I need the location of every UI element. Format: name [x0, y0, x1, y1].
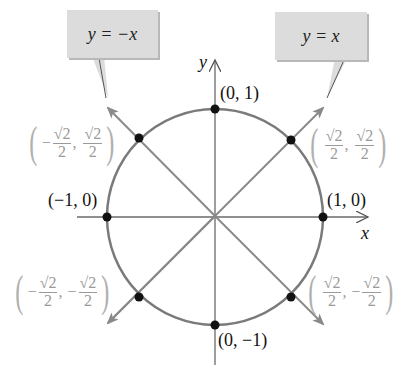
point-q3: [135, 293, 144, 302]
point-right: [319, 213, 328, 222]
point-q4: [287, 293, 296, 302]
line-y-equals-x-back: [108, 216, 215, 323]
label-q4: ( √22, − √22 ): [305, 270, 397, 314]
point-q1: [287, 136, 296, 145]
label-bottom: (0, −1): [218, 330, 267, 351]
label-q3: ( − √22, − √22 ): [12, 270, 113, 314]
point-left: [103, 213, 112, 222]
label-right: (1, 0): [327, 190, 366, 211]
point-bottom: [211, 321, 220, 330]
callout-y-equals-neg-x: y = −x: [67, 10, 158, 58]
label-q1: ( √22, √22 ): [307, 123, 390, 167]
callout-y-equals-x: y = x: [275, 12, 367, 60]
label-q2: ( − √22, √22 ): [26, 121, 118, 165]
callout-left-text: y = −x: [88, 24, 137, 45]
label-left: (−1, 0): [48, 190, 97, 211]
point-q2: [135, 134, 144, 143]
x-axis-label: x: [361, 223, 369, 244]
point-top: [211, 105, 220, 114]
y-axis-label: y: [199, 52, 207, 73]
callout-right-text: y = x: [302, 26, 339, 47]
label-top: (0, 1): [220, 83, 259, 104]
